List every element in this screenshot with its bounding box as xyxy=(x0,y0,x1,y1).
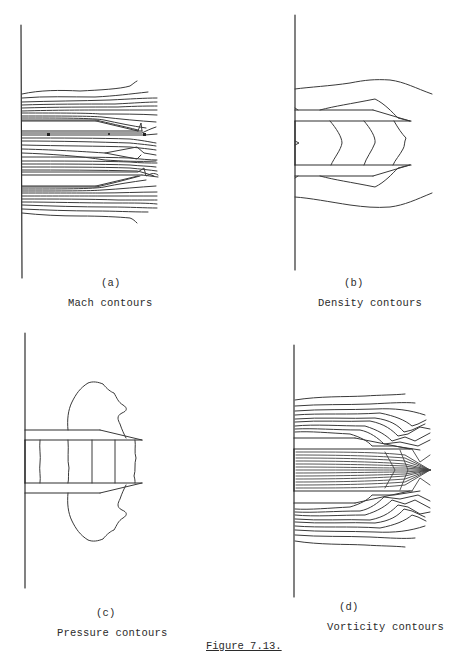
panel-d-upper-contours xyxy=(294,394,430,450)
panel-b-plot xyxy=(295,15,432,270)
panel-a-channel-contours xyxy=(22,123,158,177)
panel-d-channel-contours xyxy=(294,449,430,491)
figure-canvas xyxy=(0,0,453,658)
panel-a-upper-contours xyxy=(22,81,157,131)
panel-a-plot xyxy=(21,25,158,278)
panel-d-letter: (d) xyxy=(339,601,359,613)
panel-a-lower-contours xyxy=(22,176,157,223)
panel-a-wall xyxy=(21,25,22,278)
panel-c-letter: (c) xyxy=(96,607,116,619)
panel-d-title: Vorticity contours xyxy=(327,621,444,633)
panel-b-title: Density contours xyxy=(318,297,422,309)
figure-caption: Figure 7.13. xyxy=(206,640,282,652)
panel-b-letter: (b) xyxy=(344,277,364,289)
panel-a-letter: (a) xyxy=(101,277,121,289)
panel-c-title: Pressure contours xyxy=(57,627,168,639)
panel-d-plot xyxy=(294,345,430,597)
panel-d-lower-contours xyxy=(294,491,430,547)
panel-c-plot xyxy=(25,333,142,588)
panel-a-title: Mach contours xyxy=(68,297,153,309)
